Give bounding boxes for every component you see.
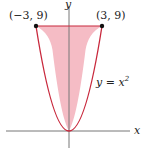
point-left <box>34 24 38 28</box>
parabola-diagram: (−3, 9) (3, 9) y x y = x2 <box>0 0 146 155</box>
point-right <box>100 24 104 28</box>
x-axis-label: x <box>134 124 141 137</box>
curve-equation-label: y = x2 <box>95 75 130 89</box>
y-axis-label: y <box>64 0 72 11</box>
curve-equation-main: y = x <box>95 76 125 89</box>
curve-equation-exponent: 2 <box>124 75 130 83</box>
point-left-label: (−3, 9) <box>9 9 48 22</box>
point-right-label: (3, 9) <box>96 9 126 22</box>
